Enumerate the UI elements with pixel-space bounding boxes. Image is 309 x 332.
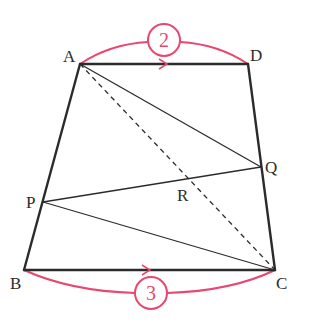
diagonal-ac-dashed	[80, 64, 275, 270]
svg-text:3: 3	[146, 282, 156, 304]
label-c: C	[276, 274, 287, 293]
label-r: R	[177, 186, 189, 205]
label-d: D	[250, 46, 262, 65]
segment-pq	[43, 167, 261, 202]
segment-pc	[43, 202, 275, 270]
side-ab	[24, 64, 80, 270]
segment-aq	[80, 64, 261, 167]
ratio-badge-ad: 2	[148, 24, 180, 56]
trapezoid-diagram: 2 3 A D Q R P B C	[0, 0, 309, 332]
svg-text:2: 2	[159, 29, 169, 51]
ratio-badge-bc: 3	[135, 277, 167, 309]
label-p: P	[26, 193, 35, 212]
label-a: A	[63, 47, 76, 66]
label-q: Q	[265, 158, 277, 177]
label-b: B	[10, 274, 21, 293]
